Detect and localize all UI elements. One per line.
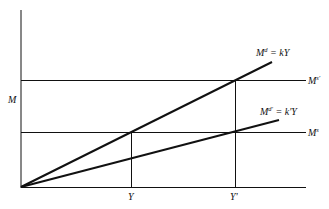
demand-line-k-prime: [21, 120, 279, 187]
supply-label-upper: Ms': [307, 74, 321, 86]
demand-label-k-prime: Md' = k'Y: [259, 105, 298, 117]
demand-label-k: Md = kY: [255, 46, 291, 58]
x-tick-y-prime: Y': [230, 191, 239, 202]
supply-label-lower: Ms: [307, 126, 319, 138]
money-demand-diagram: M Y Y' Md = kY Md' = k'Y Ms' Ms: [0, 0, 329, 209]
y-axis-label: M: [7, 94, 17, 105]
x-tick-y: Y: [128, 191, 135, 202]
